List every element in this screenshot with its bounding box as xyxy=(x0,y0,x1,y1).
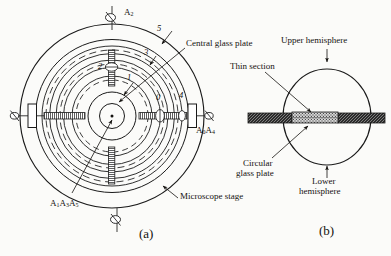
panel-caption-a: (a) xyxy=(139,227,153,241)
axis-symbol-a2-top xyxy=(106,6,116,30)
ring-number-0: 0 xyxy=(156,93,160,102)
callout-central-glass-plate: Central glass plate xyxy=(186,39,252,49)
callout-circular-glass-plate-line2: glass plate xyxy=(236,169,274,179)
leader-ring-1 xyxy=(124,83,133,95)
upper-hemisphere-arc xyxy=(283,69,371,117)
circular-glass-plate-right xyxy=(338,113,385,123)
axis-label-a2: A2 xyxy=(124,8,133,18)
center-dot xyxy=(111,115,114,118)
ring-number-5: 5 xyxy=(157,24,161,33)
leader-circular-glass-plate xyxy=(272,126,308,158)
spoke-left xyxy=(10,104,85,128)
ring-number-4: 4 xyxy=(179,91,183,100)
spoke-bottom xyxy=(108,147,114,184)
ring-number-2: 2 xyxy=(98,62,102,71)
axis-label-a1a3a5: A1A3A5 xyxy=(50,199,78,209)
leader-microscope-stage xyxy=(163,186,178,198)
leader-thin-section xyxy=(265,72,311,112)
axis-symbol-a1a3a5-bottom xyxy=(111,208,121,232)
axis-label-a0a4: A0A4 xyxy=(196,126,215,136)
callout-upper-hemisphere: Upper hemisphere xyxy=(281,36,347,46)
figure-container: A2 A0A4 A1A3A5 0 1 2 3 4 5 Central glass… xyxy=(0,0,391,256)
ring-number-3: 3 xyxy=(144,48,148,57)
spoke-right xyxy=(139,104,214,128)
ring-number-1: 1 xyxy=(127,73,131,82)
circular-glass-plate-left xyxy=(248,113,292,123)
panel-caption-b: (b) xyxy=(319,224,334,238)
lower-hemisphere-arc xyxy=(283,117,371,165)
callout-microscope-stage: Microscope stage xyxy=(180,192,243,202)
callout-thin-section: Thin section xyxy=(230,62,275,72)
callout-lower-hemisphere-line2: hemisphere xyxy=(299,187,340,197)
